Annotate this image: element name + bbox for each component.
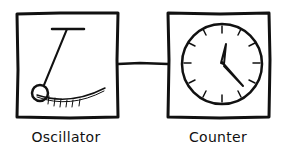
oscillator-label: Oscillator xyxy=(11,129,121,145)
counter-box xyxy=(168,13,270,118)
connector-line xyxy=(118,63,168,64)
clock-icon xyxy=(182,24,262,104)
counter-label: Counter xyxy=(163,129,273,145)
pendulum-icon xyxy=(32,29,105,107)
